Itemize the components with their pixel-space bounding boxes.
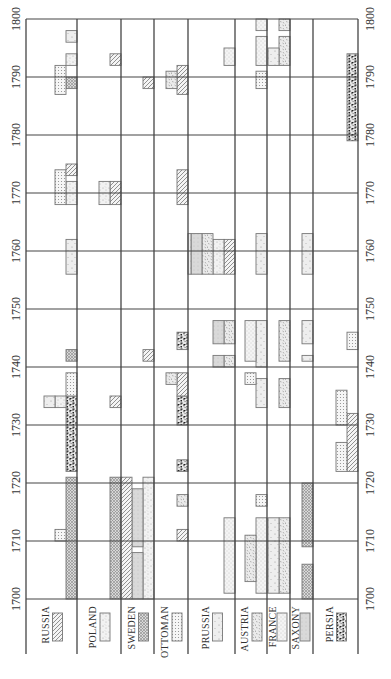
tick-label-left: 1770 <box>9 181 23 205</box>
legend-swatch-persia <box>337 613 347 641</box>
tick-label-left: 1710 <box>9 529 23 553</box>
war-box-prussia-vs-france: PRUSSIA vs FRANCE 1792–1795 <box>224 48 235 65</box>
war-box-austria-vs-france: AUSTRIA vs FRANCE 1701–1714 <box>256 518 267 593</box>
war-box-saxony-vs-prussia: SAXONY vs PRUSSIA 1744–1748 <box>302 321 313 344</box>
tick-label-right: 1740 <box>363 355 377 379</box>
war-box-ottoman-vs-austria: OTTOMAN vs AUSTRIA 1716–1718 <box>177 495 188 507</box>
war-box-france-vs-austria: FRANCE vs AUSTRIA 1798–1800 <box>279 19 290 31</box>
legend-label-ottoman: OTTOMAN <box>159 606 170 658</box>
legend-label-saxony: SAXONY <box>290 606 301 649</box>
war-box-prussia-vs-russia: PRUSSIA vs RUSSIA 1756–1762 <box>224 239 235 274</box>
war-box-ottoman-vs-persia: OTTOMAN vs PERSIA 1722–1724 <box>177 460 188 472</box>
war-box-prussia-vs-austria: PRUSSIA vs AUSTRIA 1756–1763 <box>202 234 213 275</box>
tick-label-left: 1700 <box>9 587 23 611</box>
tick-label-right: 1750 <box>363 297 377 321</box>
war-box-sweden-vs-russia: SWEDEN vs RUSSIA 1741–1743 <box>143 350 154 362</box>
war-box-austria-vs-france: AUSTRIA vs FRANCE 1792–1797 <box>256 36 267 65</box>
war-box-austria-vs-prussia: AUSTRIA vs PRUSSIA 1756–1763 <box>256 234 267 275</box>
war-box-france-vs-austria: FRANCE vs AUSTRIA 1792–1797 <box>279 36 290 65</box>
tick-label-left: 1740 <box>9 355 23 379</box>
legend-label-poland: POLAND <box>87 606 98 648</box>
war-box-russia-vs-ottoman: RUSSIA vs OTTOMAN 1735–1739 <box>66 373 77 396</box>
war-box-austria-vs-prussia: AUSTRIA vs PRUSSIA 1733–1738 <box>256 379 267 408</box>
tick-label-right: 1760 <box>363 239 377 263</box>
war-box-prussia-vs-poland: PRUSSIA vs POLAND 1756–1762 <box>213 239 224 274</box>
war-box-persia-vs-persia: PERSIA vs PERSIA 1779–1794 <box>347 54 358 141</box>
war-box-ottoman-vs-persia: OTTOMAN vs PERSIA 1730–1735 <box>177 396 188 425</box>
war-box-saxony-vs-sweden: SAXONY vs SWEDEN 1709–1720 <box>302 483 313 547</box>
war-box-sweden-vs-saxony: SWEDEN vs SAXONY 1700–1708 <box>132 553 143 599</box>
tick-label-right: 1780 <box>363 123 377 147</box>
legend-swatch-poland <box>100 613 110 641</box>
legend: RUSSIAPOLANDSWEDENOTTOMANPRUSSIAAUSTRIAF… <box>40 606 347 658</box>
legend-swatch-france <box>277 613 287 641</box>
war-box-france-vs-prussia: FRANCE vs PRUSSIA 1701–1714 <box>268 518 279 593</box>
war-box-austria-vs-ottoman: AUSTRIA vs OTTOMAN 1737–1739 <box>245 373 256 385</box>
war-box-russia-vs-sweden: RUSSIA vs SWEDEN 1788–1790 <box>66 77 77 89</box>
tick-label-right: 1800 <box>363 7 377 31</box>
war-box-austria-vs-ottoman: AUSTRIA vs OTTOMAN 1716–1718 <box>256 495 267 507</box>
war-box-russia-vs-ottoman: RUSSIA vs OTTOMAN 1710–1712 <box>55 529 66 541</box>
war-box-prussia-vs-saxony: PRUSSIA vs SAXONY 1740–1742 <box>213 355 224 367</box>
tick-label-right: 1720 <box>363 471 377 495</box>
year-axis-right: 1700171017201730174017501760177017801790… <box>363 7 377 611</box>
war-box-saxony-vs-prussia: SAXONY vs PRUSSIA 1756–1763 <box>302 234 313 275</box>
war-box-poland-vs-russia: POLAND vs RUSSIA 1792–1794 <box>110 54 121 66</box>
tick-label-right: 1730 <box>363 413 377 437</box>
tick-label-left: 1800 <box>9 7 23 31</box>
war-box-persia-vs-ottoman: PERSIA vs OTTOMAN 1730–1736 <box>336 390 347 425</box>
war-box-ottoman-vs-austria: OTTOMAN vs AUSTRIA 1788–1791 <box>166 71 177 88</box>
war-box-austria-vs-france: AUSTRIA vs FRANCE 1741–1748 <box>245 321 256 362</box>
legend-swatch-ottoman <box>172 613 182 641</box>
war-box-ottoman-vs-persia: OTTOMAN vs PERSIA 1743–1746 <box>177 332 188 349</box>
legend-label-sweden: SWEDEN <box>126 606 137 649</box>
war-box-russia-vs-poland: RUSSIA vs POLAND 1733–1735 <box>55 396 66 408</box>
legend-swatch-saxony <box>300 613 310 641</box>
tick-label-right: 1790 <box>363 65 377 89</box>
war-box-ottoman-vs-russia: OTTOMAN vs RUSSIA 1710–1712 <box>177 529 188 541</box>
tick-label-left: 1790 <box>9 65 23 89</box>
war-box-persia-vs-russia: PERSIA vs RUSSIA 1722–1732 <box>347 413 358 471</box>
war-box-russia-vs-sweden: RUSSIA vs SWEDEN 1741–1743 <box>66 350 77 362</box>
tick-label-left: 1750 <box>9 297 23 321</box>
war-box-prussia-vs-saxony: PRUSSIA vs SAXONY 1756–1763 <box>191 234 202 275</box>
legend-label-russia: RUSSIA <box>40 606 51 644</box>
war-box-france-vs-austria: FRANCE vs AUSTRIA 1733–1738 <box>279 379 290 408</box>
tick-label-left: 1760 <box>9 239 23 263</box>
war-box-persia-vs-ottoman: PERSIA vs OTTOMAN 1743–1746 <box>347 332 358 349</box>
legend-label-persia: PERSIA <box>324 606 335 643</box>
war-box-france-vs-prussia: FRANCE vs PRUSSIA 1792–1795 <box>268 48 279 65</box>
legend-swatch-austria <box>252 613 262 641</box>
legend-label-france: FRANCE <box>267 606 278 647</box>
war-box-russia-vs-prussia: RUSSIA vs PRUSSIA 1796–1798 <box>66 31 77 43</box>
war-box-prussia-vs-austria: PRUSSIA vs AUSTRIA 1740–1742 <box>224 355 235 367</box>
war-box-saxony-vs-prussia: SAXONY vs PRUSSIA 1741–1742 <box>302 355 313 361</box>
war-box-poland-vs-russia: POLAND vs RUSSIA 1733–1735 <box>110 396 121 408</box>
war-box-russia-vs-persia: RUSSIA vs PERSIA 1722–1735 <box>66 396 77 471</box>
war-box-austria-vs-ottoman: AUSTRIA vs OTTOMAN 1788–1791 <box>256 71 267 88</box>
war-box-ottoman-vs-russia: OTTOMAN vs RUSSIA 1768–1774 <box>177 170 188 205</box>
year-axis-left: 1700171017201730174017501760177017801790… <box>9 7 23 611</box>
war-box-prussia-vs-austria: PRUSSIA vs AUSTRIA 1744–1748 <box>224 321 235 344</box>
tick-label-right: 1700 <box>363 587 377 611</box>
war-box-sweden-vs-russia: SWEDEN vs RUSSIA 1788–1790 <box>143 77 154 89</box>
legend-swatch-prussia <box>213 613 223 641</box>
war-box-austria-vs-prussia: AUSTRIA vs PRUSSIA 1740–1748 <box>256 321 267 367</box>
war-box-russia-vs-poland: RUSSIA vs POLAND 1792–1794 <box>66 54 77 66</box>
war-box-poland-vs-sweden: POLAND vs SWEDEN 1700–1721 <box>110 477 121 599</box>
war-timeline-chart: RUSSIA vs PERSIA 1722–1735RUSSIA vs SWED… <box>0 0 391 679</box>
war-box-persia-vs-ottoman: PERSIA vs OTTOMAN 1722–1727 <box>336 442 347 471</box>
war-box-austria-vs-france: AUSTRIA vs FRANCE 1798–1800 <box>256 19 267 31</box>
war-box-sweden-vs-saxony: SWEDEN vs SAXONY 1709–1719 <box>132 489 143 547</box>
war-box-france-vs-austria: FRANCE vs AUSTRIA 1741–1748 <box>279 321 290 362</box>
war-box-russia-vs-prussia: RUSSIA vs PRUSSIA 1756–1762 <box>66 239 77 274</box>
war-box-sweden-vs-russia: SWEDEN vs RUSSIA 1700–1721 <box>121 477 132 599</box>
tick-label-left: 1780 <box>9 123 23 147</box>
war-box-ottoman-vs-russia: OTTOMAN vs RUSSIA 1787–1792 <box>177 65 188 94</box>
war-box-russia-vs-prussia: RUSSIA vs PRUSSIA 1733–1735 <box>44 396 55 408</box>
war-box-russia-vs-sweden: RUSSIA vs SWEDEN 1700–1721 <box>66 477 77 599</box>
war-box-ottoman-vs-austria: OTTOMAN vs AUSTRIA 1737–1739 <box>166 373 177 385</box>
legend-swatch-russia <box>53 613 63 641</box>
tick-label-right: 1770 <box>363 181 377 205</box>
war-box-sweden-vs-poland: SWEDEN vs POLAND 1700–1721 <box>143 477 154 599</box>
